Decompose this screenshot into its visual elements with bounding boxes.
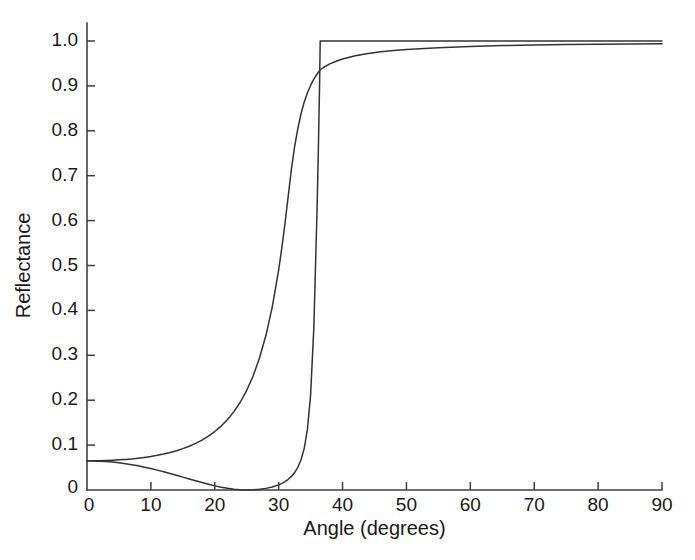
y-tick-label: 0.7: [52, 164, 78, 185]
data-curve: [87, 41, 662, 490]
y-tick-label: 0.5: [52, 254, 78, 275]
data-series-group: [87, 41, 662, 490]
fresnel-reflectance-chart: 00.10.20.30.40.50.60.70.80.91.0 01020304…: [0, 0, 695, 560]
x-tick-label: 20: [204, 494, 225, 515]
x-tick-label: 90: [651, 494, 672, 515]
chart-canvas: 00.10.20.30.40.50.60.70.80.91.0 01020304…: [0, 0, 695, 560]
y-tick-label: 0.4: [52, 298, 79, 319]
y-tick-label: 1.0: [52, 29, 78, 50]
x-axis-tick-labels: 0102030405060708090: [84, 494, 673, 515]
x-tick-label: 0: [84, 494, 95, 515]
x-tick-label: 40: [332, 494, 353, 515]
y-axis-tick-labels: 00.10.20.30.40.50.60.70.80.91.0: [52, 29, 79, 497]
data-curve: [87, 44, 662, 461]
y-axis-tick-marks: [87, 41, 95, 445]
x-tick-label: 30: [268, 494, 289, 515]
y-tick-label: 0.3: [52, 343, 78, 364]
x-tick-label: 60: [460, 494, 481, 515]
y-tick-label: 0.9: [52, 74, 78, 95]
y-tick-label: 0.1: [52, 433, 78, 454]
x-axis-title: Angle (degrees): [303, 517, 445, 539]
y-axis-title: Reflectance: [12, 213, 34, 319]
y-tick-label: 0.2: [52, 388, 78, 409]
x-tick-label: 70: [524, 494, 545, 515]
x-tick-label: 50: [396, 494, 417, 515]
x-tick-label: 10: [140, 494, 161, 515]
x-tick-label: 80: [588, 494, 609, 515]
y-tick-label: 0: [67, 476, 78, 497]
y-tick-label: 0.6: [52, 209, 78, 230]
y-tick-label: 0.8: [52, 119, 78, 140]
